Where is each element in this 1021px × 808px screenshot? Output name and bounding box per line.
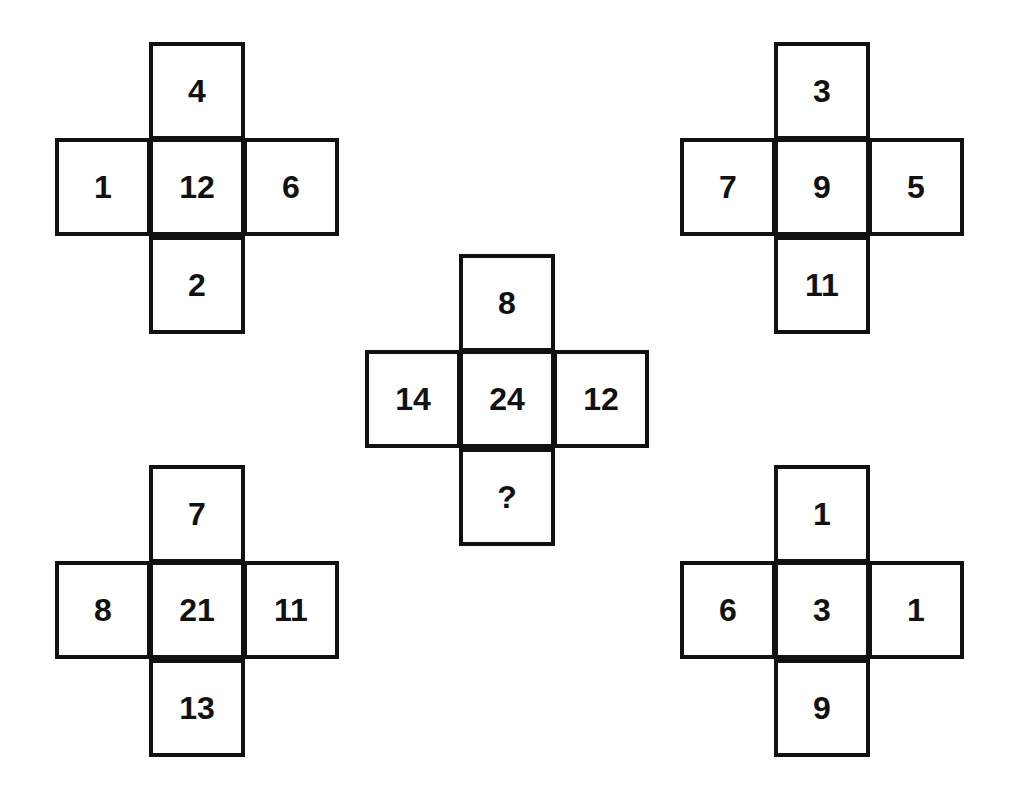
cross-top-right: 3 7 9 5 11: [680, 42, 964, 334]
cell-right: 12: [553, 350, 649, 448]
cell-bottom-unknown: ?: [459, 448, 555, 546]
cell-top: 8: [459, 254, 555, 352]
cell-right: 5: [868, 138, 964, 236]
cell-top: 4: [149, 42, 245, 140]
cross-bottom-right: 1 6 3 1 9: [680, 465, 964, 757]
cell-center: 21: [149, 561, 245, 659]
cell-bottom: 13: [149, 659, 245, 757]
cell-right: 1: [868, 561, 964, 659]
cross-middle: 8 14 24 12 ?: [365, 254, 649, 546]
cell-left: 6: [680, 561, 776, 659]
cell-center: 12: [149, 138, 245, 236]
cell-left: 14: [365, 350, 461, 448]
cross-top-left: 4 1 12 6 2: [55, 42, 339, 334]
cell-center: 24: [459, 350, 555, 448]
cell-bottom: 11: [774, 236, 870, 334]
cell-top: 3: [774, 42, 870, 140]
cell-left: 8: [55, 561, 151, 659]
cross-bottom-left: 7 8 21 11 13: [55, 465, 339, 757]
cell-left: 1: [55, 138, 151, 236]
cell-top: 1: [774, 465, 870, 563]
cell-center: 9: [774, 138, 870, 236]
cell-top: 7: [149, 465, 245, 563]
cell-right: 6: [243, 138, 339, 236]
cell-right: 11: [243, 561, 339, 659]
cell-bottom: 9: [774, 659, 870, 757]
cell-bottom: 2: [149, 236, 245, 334]
cell-left: 7: [680, 138, 776, 236]
cell-center: 3: [774, 561, 870, 659]
